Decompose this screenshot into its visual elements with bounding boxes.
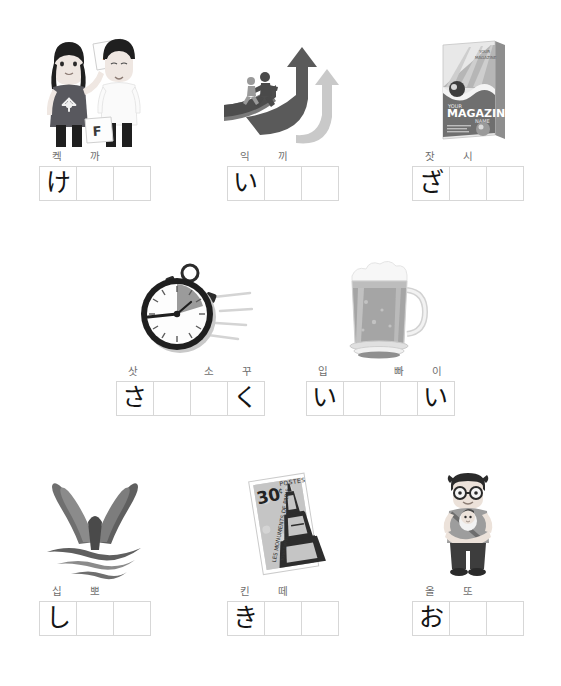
syllable-label: 뽀 — [76, 584, 114, 598]
syllable-label: 또 — [449, 584, 487, 598]
label-row: 켁 까 — [38, 149, 152, 163]
answer-boxes: い い — [306, 381, 455, 416]
label-row: 입 빠 이 — [304, 364, 456, 378]
illustration-students-with-a-plus-paper: A+ — [0, 24, 190, 149]
syllable-label: 꾸 — [228, 364, 266, 378]
kana-char: け — [46, 170, 71, 195]
illustration-magazine-cover: YOUR MAGAZINE YOUR MAGAZINE NAME — [375, 24, 561, 149]
syllable-label: 끼 — [264, 149, 302, 163]
row2-spacer-right — [475, 225, 561, 440]
syllable-label: 십 — [38, 584, 76, 598]
syllable-label: 까 — [76, 149, 114, 163]
answer-boxes: お — [412, 601, 524, 636]
illustration-man-holding-baby — [375, 466, 561, 584]
syllable-label — [302, 584, 340, 598]
exercise-item-2: 익 끼 い — [190, 0, 375, 225]
kana-char: い — [233, 170, 258, 195]
syllable-label: 떼 — [264, 584, 302, 598]
answer-box[interactable]: く — [227, 381, 265, 416]
kana-char: き — [233, 605, 258, 630]
label-row: 익 끼 — [226, 149, 340, 163]
kana-char: く — [233, 385, 258, 410]
exercise-item-5: 입 빠 이 い い — [285, 225, 475, 440]
answer-boxes: し — [39, 601, 151, 636]
syllable-label — [114, 149, 152, 163]
exercise-item-4: 삿 소 꾸 さ く — [95, 225, 285, 440]
stamp-illustration-svg: 30 ¢ POSTES LES MONUMENTS DE PARIS TOUR … — [228, 469, 338, 584]
exercise-item-8: 올 또 お — [375, 440, 561, 656]
kana-char: し — [46, 605, 71, 630]
answer-box[interactable] — [113, 166, 151, 201]
svg-text:F: F — [92, 123, 102, 139]
syllable-label — [152, 364, 190, 378]
magazine-illustration-svg: YOUR MAGAZINE YOUR MAGAZINE NAME — [413, 29, 523, 149]
kana-char: ざ — [419, 170, 444, 195]
syllable-label: 켁 — [38, 149, 76, 163]
answer-box[interactable] — [486, 601, 524, 636]
answer-box[interactable]: き — [227, 601, 265, 636]
answer-box[interactable] — [486, 166, 524, 201]
answer-box[interactable] — [153, 381, 191, 416]
syllable-label: 삿 — [114, 364, 152, 378]
answer-box[interactable] — [264, 601, 302, 636]
answer-box[interactable] — [113, 601, 151, 636]
syllable-label: 잣 — [411, 149, 449, 163]
answer-box[interactable]: し — [39, 601, 77, 636]
answer-box[interactable] — [76, 166, 114, 201]
answer-box[interactable]: け — [39, 166, 77, 201]
syllable-label — [487, 149, 525, 163]
kana-char: さ — [122, 385, 147, 410]
syllable-label: 킨 — [226, 584, 264, 598]
kana-char: い — [312, 385, 337, 410]
answer-box[interactable] — [190, 381, 228, 416]
answer-box[interactable]: い — [227, 166, 265, 201]
answer-box[interactable]: い — [417, 381, 455, 416]
label-row: 잣 시 — [411, 149, 525, 163]
kana-char: お — [419, 605, 444, 630]
exercise-item-1: A+ — [0, 0, 190, 225]
answer-box[interactable]: さ — [116, 381, 154, 416]
answer-box[interactable]: お — [412, 601, 450, 636]
exercise-item-7: 30 ¢ POSTES LES MONUMENTS DE PARIS TOUR … — [190, 440, 375, 656]
answer-box[interactable] — [301, 601, 339, 636]
label-row: 십 뽀 — [38, 584, 152, 598]
answer-box[interactable] — [264, 166, 302, 201]
stopwatch-illustration-svg — [128, 259, 253, 364]
syllable-label: 시 — [449, 149, 487, 163]
illustration-whale-tail — [0, 466, 190, 584]
answer-box[interactable]: い — [306, 381, 344, 416]
beer-mug-illustration-svg — [330, 254, 430, 364]
illustration-beer-mug — [285, 249, 475, 364]
illustration-stopwatch — [95, 249, 285, 364]
answer-boxes: け — [39, 166, 151, 201]
answer-box[interactable] — [449, 166, 487, 201]
answer-boxes: い — [227, 166, 339, 201]
answer-boxes: き — [227, 601, 339, 636]
syllable-label: 빠 — [380, 364, 418, 378]
answer-box[interactable] — [380, 381, 418, 416]
svg-text:MAGAZINE: MAGAZINE — [475, 55, 497, 60]
row2-spacer — [0, 225, 95, 440]
illustration-postage-stamp-eiffel-tower: 30 ¢ POSTES LES MONUMENTS DE PARIS TOUR … — [190, 466, 375, 584]
syllable-label — [302, 149, 340, 163]
worksheet-row: 삿 소 꾸 さ く — [0, 225, 561, 440]
arrow-ramp-illustration-svg — [218, 39, 348, 149]
answer-box[interactable] — [301, 166, 339, 201]
syllable-label: 이 — [418, 364, 456, 378]
svg-text:YOUR: YOUR — [478, 49, 490, 54]
syllable-label: 익 — [226, 149, 264, 163]
label-row: 킨 떼 — [226, 584, 340, 598]
whale-tail-illustration-svg — [33, 472, 158, 584]
worksheet-page: A+ — [0, 0, 561, 686]
answer-box[interactable] — [343, 381, 381, 416]
answer-boxes: ざ — [412, 166, 524, 201]
students-illustration-svg: A+ — [35, 31, 155, 149]
syllable-label: 소 — [190, 364, 228, 378]
answer-box[interactable]: ざ — [412, 166, 450, 201]
answer-box[interactable] — [76, 601, 114, 636]
exercise-item-6: 십 뽀 し — [0, 440, 190, 656]
man-baby-illustration-svg — [421, 469, 516, 584]
syllable-label: 올 — [411, 584, 449, 598]
exercise-item-3: YOUR MAGAZINE YOUR MAGAZINE NAME 잣 시 — [375, 0, 561, 225]
answer-box[interactable] — [449, 601, 487, 636]
